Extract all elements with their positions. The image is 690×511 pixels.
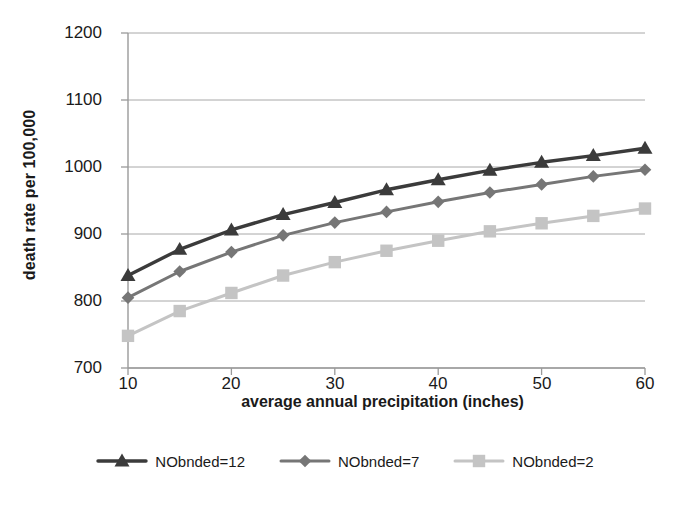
data-point-marker <box>639 202 651 214</box>
x-tick-label: 20 <box>201 375 261 392</box>
legend-item-nobnded-12[interactable]: NObnded=12 <box>96 452 245 470</box>
data-point-marker <box>277 229 290 242</box>
data-point-marker <box>277 269 289 281</box>
data-point-marker <box>587 210 599 222</box>
legend-item-nobnded-2[interactable]: NObnded=2 <box>453 452 593 470</box>
data-point-marker <box>174 305 186 317</box>
x-tick-label: 40 <box>408 375 468 392</box>
data-point-marker <box>380 206 393 219</box>
data-point-marker <box>173 265 186 278</box>
legend-label: NObnded=12 <box>155 454 245 469</box>
series-line-nobnded-2 <box>128 209 645 336</box>
chart-figure: death rate per 100,000 1200 1100 1000 90… <box>0 0 690 511</box>
plot-area <box>0 0 690 511</box>
x-axis-title: average annual precipitation (inches) <box>110 393 655 411</box>
legend-label: NObnded=7 <box>338 454 419 469</box>
data-point-marker <box>225 287 237 299</box>
legend-swatch-square-icon <box>453 452 505 470</box>
data-point-marker <box>473 455 485 467</box>
data-point-marker <box>380 245 392 257</box>
legend-swatch-triangle-icon <box>96 452 148 470</box>
data-point-marker <box>484 225 496 237</box>
data-point-marker <box>329 216 342 229</box>
data-point-marker <box>587 170 600 183</box>
data-point-marker <box>432 196 445 209</box>
chart-legend: NObnded=12NObnded=7NObnded=2 <box>0 452 690 470</box>
data-point-marker <box>484 186 497 199</box>
data-point-marker <box>329 256 341 268</box>
data-point-marker <box>225 246 238 259</box>
data-point-marker <box>638 141 653 154</box>
legend-swatch-diamond-icon <box>279 452 331 470</box>
x-tick-label: 50 <box>512 375 572 392</box>
data-point-marker <box>535 217 547 229</box>
data-point-marker <box>122 291 135 304</box>
x-tick-label: 60 <box>615 375 675 392</box>
data-point-marker <box>432 235 444 247</box>
legend-label: NObnded=2 <box>512 454 593 469</box>
x-tick-label: 30 <box>305 375 365 392</box>
data-point-marker <box>122 330 134 342</box>
x-tick-label: 10 <box>98 375 158 392</box>
legend-item-nobnded-7[interactable]: NObnded=7 <box>279 452 419 470</box>
data-point-marker <box>535 178 548 191</box>
data-point-marker <box>639 163 652 176</box>
data-point-marker <box>299 455 312 468</box>
